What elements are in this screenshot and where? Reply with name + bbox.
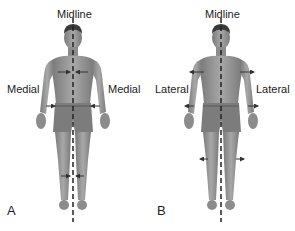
figure-letter-a: A xyxy=(7,203,16,218)
human-figure-b xyxy=(148,0,295,231)
lateral-label-left: Lateral xyxy=(155,83,189,95)
figure-b-lateral: Midline Lateral Lateral B xyxy=(148,0,295,231)
lateral-label-right: Lateral xyxy=(256,83,290,95)
figure-a-medial: Midline Medial Medial A xyxy=(0,0,147,231)
figure-letter-b: B xyxy=(157,203,166,218)
medial-label-left: Medial xyxy=(7,83,39,95)
human-figure-a xyxy=(0,0,147,231)
midline-label-b: Midline xyxy=(205,8,240,20)
midline-label-a: Midline xyxy=(57,8,92,20)
medial-label-right: Medial xyxy=(108,83,140,95)
